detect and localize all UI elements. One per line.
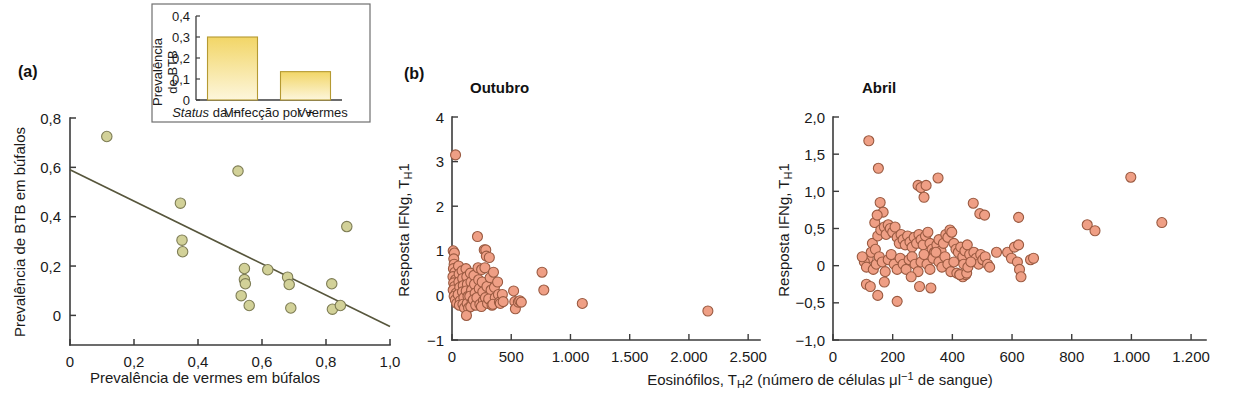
data-point [335, 300, 345, 310]
data-point [880, 267, 890, 277]
abril-title: Abril [862, 79, 896, 96]
abril-ytick-label: 1,0 [804, 183, 825, 200]
outubro-xtick-label: 1.000 [552, 348, 590, 365]
data-point [906, 272, 916, 282]
xaxis-sup: −1 [901, 370, 914, 382]
data-point [947, 227, 957, 237]
data-point [921, 180, 931, 190]
data-point [968, 198, 978, 208]
data-point [923, 227, 933, 237]
abril-yaxis-title-tail: 1 [775, 163, 792, 171]
panel-a-ytick-label: 0,4 [40, 208, 61, 225]
abril-yaxis-title-main: Resposta IFNg, T [775, 180, 792, 297]
outubro-ytick-label: −1 [427, 332, 444, 349]
data-point [327, 279, 337, 289]
data-point [516, 297, 526, 307]
data-point [102, 131, 112, 141]
abril-xtick-label: 1.200 [1172, 348, 1210, 365]
outubro-xtick-label: 0 [448, 348, 456, 365]
data-point [864, 136, 874, 146]
inset-bar-chart: 00,10,20,30,4 V−V+ Prevalência de BTB St… [150, 4, 370, 122]
abril-ytick-label: −0,5 [795, 294, 825, 311]
data-point [875, 197, 885, 207]
data-point [539, 285, 549, 295]
inset-ytick-label: 0,3 [172, 30, 190, 45]
panel-a-ytick-label: 0,2 [40, 258, 61, 275]
inset-yaxis-title-line2: de BTB [165, 50, 180, 93]
outubro-ytick-label: 1 [436, 242, 444, 259]
data-point [872, 210, 882, 220]
abril-xtick-label: 1.000 [1113, 348, 1151, 365]
abril-xtick-label: 200 [880, 348, 905, 365]
outubro-xtick-label: 1.500 [611, 348, 649, 365]
panel-b-label: (b) [404, 65, 424, 82]
data-point [284, 279, 294, 289]
inset-yaxis-title-line1: Prevalência [150, 37, 165, 106]
data-point [873, 163, 883, 173]
outubro-ytick-label: 0 [436, 287, 444, 304]
data-point [985, 262, 995, 272]
panel-a-ytick-label: 0,8 [40, 110, 61, 127]
data-point [472, 232, 482, 242]
data-point [244, 300, 254, 310]
data-point [1090, 226, 1100, 236]
inset-bar [281, 72, 331, 100]
data-point [857, 252, 867, 262]
inset-xaxis-title-rest: da infecção por vermes [209, 105, 348, 120]
panel-b-xaxis-title: Eosinófilos, TH2 (número de células μl−1… [647, 370, 993, 390]
data-point [239, 263, 249, 273]
panel-a-xaxis-title: Prevalência de vermes em búfalos [90, 369, 320, 386]
panel-a-xtick-label: 0,4 [188, 353, 209, 370]
abril-yaxis-title: Resposta IFNg, TH1 [775, 163, 794, 297]
data-point [865, 281, 875, 291]
abril-ytick-label: 0 [817, 257, 825, 274]
data-point [949, 257, 959, 267]
data-point [879, 277, 889, 287]
figure-container: (a) 00,20,40,60,8 00,20,40,60,81,0 Preva… [0, 0, 1246, 401]
outubro-yaxis-title-sub: H [402, 172, 414, 180]
xaxis-end: de sangue) [914, 371, 993, 388]
outubro-yaxis-title-tail: 1 [395, 163, 412, 171]
abril-xtick-label: 600 [1000, 348, 1025, 365]
inset-xaxis-title: Status da infecção por vermes [172, 105, 348, 120]
abril-ytick-label: −1,0 [795, 332, 825, 349]
data-point [509, 286, 519, 296]
data-point [493, 277, 503, 287]
data-point [488, 267, 498, 277]
figure-svg: (a) 00,20,40,60,8 00,20,40,60,81,0 Preva… [0, 0, 1246, 401]
data-point [236, 290, 246, 300]
data-point [1157, 218, 1167, 228]
outubro-title: Outubro [470, 79, 529, 96]
outubro-yaxis-title: Resposta IFNg, TH1 [395, 163, 414, 297]
panel-a-ytick-label: 0,6 [40, 159, 61, 176]
data-point [342, 221, 352, 231]
data-point [484, 252, 494, 262]
data-point [1029, 253, 1039, 263]
data-point [240, 279, 250, 289]
xaxis-post: 2 (número de células μl [745, 371, 901, 388]
outubro-xtick-label: 2.000 [670, 348, 708, 365]
data-point [175, 198, 185, 208]
data-point [925, 264, 935, 274]
data-point [915, 281, 925, 291]
data-point [919, 192, 929, 202]
data-point [451, 150, 461, 160]
inset-ytick-label: 0,4 [172, 9, 190, 24]
inset-bar [208, 37, 258, 100]
outubro-xtick-label: 500 [499, 348, 524, 365]
abril-xtick-label: 0 [829, 348, 837, 365]
data-point [703, 306, 713, 316]
panel-a-xtick-label: 0,2 [124, 353, 145, 370]
abril-xtick-label: 400 [940, 348, 965, 365]
data-point [992, 247, 1002, 257]
data-point [577, 298, 587, 308]
data-point [263, 265, 273, 275]
data-point [1014, 212, 1024, 222]
outubro-ytick-label: 3 [436, 153, 444, 170]
data-point [966, 257, 976, 267]
data-point [498, 297, 508, 307]
outubro-yaxis-title-main: Resposta IFNg, T [395, 180, 412, 297]
abril-xtick-label: 800 [1059, 348, 1084, 365]
panel-a-ytick-label: 0 [53, 307, 61, 324]
data-point [1016, 272, 1026, 282]
